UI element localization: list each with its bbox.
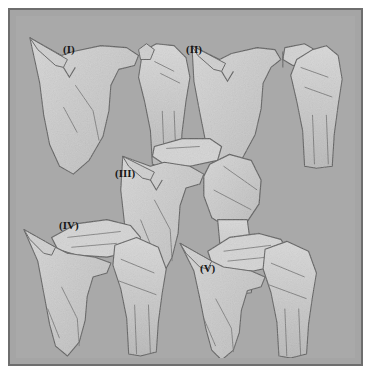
panel-label-I: (I) [63, 44, 75, 55]
panel-label-III: (III) [115, 168, 135, 179]
panel-II-humerus [291, 46, 342, 169]
figure-frame: (I) (II) (III) (IV) (V) [8, 8, 363, 366]
panel-IV-humerus [113, 237, 166, 356]
panel-V-illustration [180, 233, 316, 358]
figure-illustration-canvas [16, 16, 355, 358]
panel-label-II: (II) [186, 44, 202, 55]
panel-I-scapula [30, 38, 139, 174]
panel-III-humerus-head [204, 154, 261, 227]
panel-V-humerus [263, 241, 316, 358]
panel-label-IV: (IV) [59, 220, 79, 231]
bone-illustrations-svg [16, 16, 355, 358]
figure-root: (I) (II) (III) (IV) (V) [0, 0, 371, 374]
figure-plate: (I) (II) (III) (IV) (V) [16, 16, 355, 358]
panel-label-V: (V) [200, 263, 215, 274]
